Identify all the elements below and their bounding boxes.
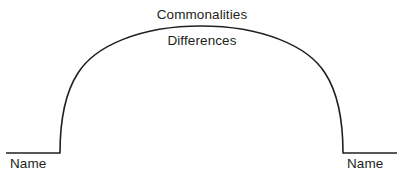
comparison-arch-diagram: Commonalities Differences Name Name [0,0,404,185]
arch-graphic [0,0,404,185]
right-name-label: Name [347,157,383,171]
left-name-label: Name [10,157,46,171]
differences-label: Differences [0,34,404,48]
commonalities-label: Commonalities [0,8,404,22]
